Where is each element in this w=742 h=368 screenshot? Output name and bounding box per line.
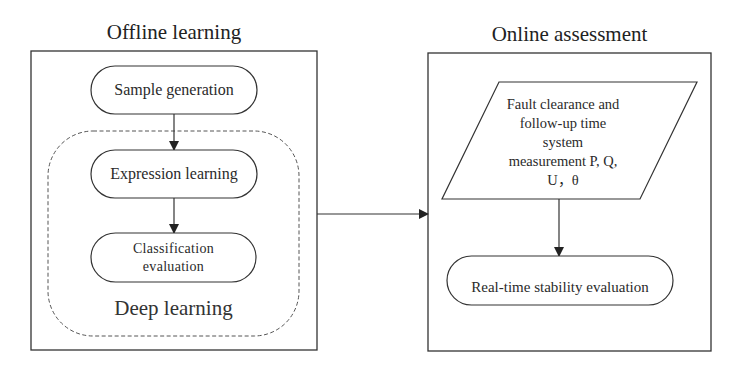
classification-label-line-1: Classification — [133, 240, 214, 258]
offline-panel-title: Offline learning — [31, 20, 317, 45]
real-time-stability-node: Real-time stability evaluation — [447, 256, 673, 305]
measurement-label-line-1: Fault clearance and — [507, 95, 620, 114]
deep-learning-group-label: Deep learning — [48, 296, 299, 321]
measurement-label-line-4: measurement P, Q, — [509, 152, 618, 171]
online-panel-title: Online assessment — [428, 22, 711, 47]
expression-learning-node: Expression learning — [91, 150, 257, 198]
measurement-label-line-3: system — [543, 133, 583, 152]
classification-evaluation-node: Classification evaluation — [91, 233, 256, 282]
real-time-stability-label: Real-time stability evaluation — [471, 278, 648, 297]
measurement-node: Fault clearance and follow-up time syste… — [490, 86, 636, 198]
sample-generation-label: Sample generation — [114, 80, 234, 100]
expression-learning-label: Expression learning — [110, 164, 238, 184]
measurement-label-line-2: follow-up time — [520, 114, 607, 133]
classification-label-line-2: evaluation — [143, 258, 204, 276]
measurement-label-line-5: U，θ — [547, 171, 578, 190]
sample-generation-node: Sample generation — [91, 66, 257, 114]
